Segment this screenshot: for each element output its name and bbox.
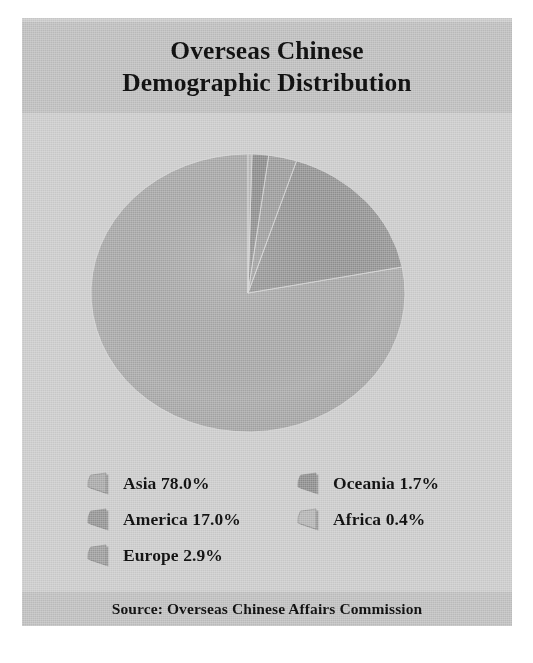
legend-item: Africa 0.4% (294, 501, 494, 537)
legend-item-label: Africa 0.4% (333, 509, 425, 530)
chart-header-band: Overseas Chinese Demographic Distributio… (22, 22, 512, 113)
figure-frame: Overseas Chinese Demographic Distributio… (22, 18, 512, 626)
chart-legend: Asia 78.0%America 17.0%Europe 2.9% Ocean… (22, 465, 512, 577)
legend-swatch-icon (84, 505, 110, 533)
pie-shading-overlay (91, 154, 405, 432)
chart-plot-area: Asia 78%America 17%Europe 2.9%Oceania 1.… (22, 113, 512, 592)
legend-column-left: Asia 78.0%America 17.0%Europe 2.9% (84, 465, 294, 573)
chart-source-band: Source: Overseas Chinese Affairs Commiss… (22, 592, 512, 626)
legend-column-right: Oceania 1.7%Africa 0.4% (294, 465, 494, 537)
legend-item-label: America 17.0% (123, 509, 241, 530)
chart-title-line-1: Overseas Chinese (122, 35, 411, 67)
source-note: Source: Overseas Chinese Affairs Commiss… (112, 600, 423, 618)
chart-title-line-2: Demographic Distribution (122, 67, 411, 99)
legend-swatch-icon (84, 469, 110, 497)
legend-swatch-icon (294, 469, 320, 497)
legend-item: Asia 78.0% (84, 465, 294, 501)
pie-chart-svg: Asia 78%America 17%Europe 2.9%Oceania 1.… (90, 153, 414, 435)
legend-item: America 17.0% (84, 501, 294, 537)
legend-item-label: Europe 2.9% (123, 545, 223, 566)
legend-item: Oceania 1.7% (294, 465, 494, 501)
legend-swatch-icon (294, 505, 320, 533)
legend-swatch-icon (84, 541, 110, 569)
legend-item-label: Oceania 1.7% (333, 473, 439, 494)
chart-title: Overseas Chinese Demographic Distributio… (122, 35, 411, 100)
legend-item: Europe 2.9% (84, 537, 294, 573)
legend-item-label: Asia 78.0% (123, 473, 210, 494)
pie-chart: Asia 78%America 17%Europe 2.9%Oceania 1.… (90, 153, 414, 435)
